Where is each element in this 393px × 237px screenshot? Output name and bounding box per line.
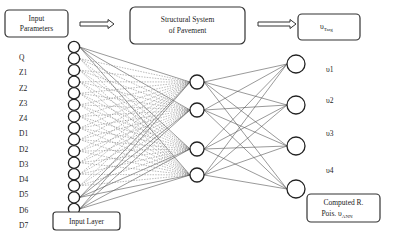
- computed-output-box: Computed R. Pois. υANN: [307, 194, 380, 222]
- input-labels: QZ1Z2Z3Z4D1D2D3D4D5D6D7: [19, 53, 28, 230]
- input-parameters-line1: Input: [29, 14, 46, 23]
- output-variable-label: υ3: [326, 129, 334, 138]
- input-layer-nodes: [68, 41, 79, 214]
- hidden-node: [190, 103, 204, 117]
- output-layer-nodes: [287, 55, 305, 198]
- hidden-node: [190, 168, 204, 182]
- input-node: [68, 65, 79, 76]
- hidden-node: [190, 142, 204, 156]
- input-node: [68, 157, 79, 168]
- input-variable-label: Z3: [19, 99, 28, 108]
- input-node: [68, 41, 79, 52]
- connection-line: [204, 105, 287, 149]
- input-variable-label: Z2: [19, 84, 28, 93]
- computed-line1: Computed R.: [323, 198, 363, 207]
- hidden-layer-nodes: [190, 75, 204, 182]
- input-variable-label: D1: [19, 129, 28, 138]
- arrow-right-icon: [258, 20, 296, 29]
- connection-line: [204, 64, 287, 82]
- input-node: [68, 192, 79, 203]
- input-hidden-connections: [80, 47, 190, 209]
- input-variable-label: Z1: [19, 68, 28, 77]
- input-parameters-box: Input Parameters: [5, 10, 68, 37]
- output-node: [287, 180, 305, 198]
- input-node: [68, 99, 79, 110]
- input-layer-label: Input Layer: [69, 217, 105, 226]
- connection-line: [80, 82, 190, 151]
- input-variable-label: D6: [19, 206, 28, 215]
- input-variable-label: D2: [19, 145, 28, 154]
- connection-line: [80, 82, 190, 93]
- connection-line: [204, 82, 287, 189]
- output-node: [287, 96, 305, 114]
- connection-line: [204, 64, 287, 110]
- input-node: [68, 122, 79, 133]
- arrow-right-icon: [80, 20, 114, 29]
- target-box: υTarg: [298, 14, 360, 40]
- connection-line: [80, 47, 190, 82]
- input-variable-label: D4: [19, 175, 28, 184]
- output-node: [287, 55, 305, 73]
- output-node: [287, 137, 305, 155]
- structural-system-box: Structural System of Pavement: [130, 7, 245, 44]
- input-node: [68, 111, 79, 122]
- input-node: [68, 53, 79, 64]
- connection-line: [204, 149, 287, 189]
- input-variable-label: Q: [19, 53, 25, 62]
- connection-line: [204, 146, 287, 149]
- input-variable-label: D3: [19, 160, 28, 169]
- hidden-output-connections: [204, 64, 287, 189]
- structural-system-line1: Structural System: [161, 15, 215, 24]
- output-variable-label: υ4: [326, 166, 334, 175]
- input-variable-label: D5: [19, 190, 28, 199]
- connection-line: [80, 151, 190, 175]
- neural-network-diagram: Input Parameters Structural System of Pa…: [0, 0, 393, 237]
- input-node: [68, 134, 79, 145]
- connection-line: [204, 82, 287, 105]
- output-labels: υ1υ2υ3υ4: [326, 65, 334, 175]
- hidden-node: [190, 75, 204, 89]
- input-parameters-line2: Parameters: [20, 24, 53, 33]
- connection-line: [80, 110, 190, 151]
- connection-line: [204, 105, 287, 110]
- connection-line: [204, 64, 287, 175]
- input-layer-box: Input Layer: [53, 212, 120, 230]
- input-node: [68, 76, 79, 87]
- output-variable-label: υ1: [326, 65, 334, 74]
- connection-line: [80, 110, 190, 197]
- output-variable-label: υ2: [326, 96, 334, 105]
- input-variable-label: D7: [19, 221, 28, 230]
- input-node: [68, 88, 79, 99]
- input-variable-label: Z4: [19, 114, 28, 123]
- connection-line: [204, 146, 287, 175]
- structural-system-line2: of Pavement: [169, 26, 208, 35]
- connection-line: [80, 110, 190, 128]
- input-node: [68, 146, 79, 157]
- input-node: [68, 169, 79, 180]
- input-node: [68, 180, 79, 191]
- connection-line: [80, 82, 190, 209]
- connection-line: [80, 149, 190, 209]
